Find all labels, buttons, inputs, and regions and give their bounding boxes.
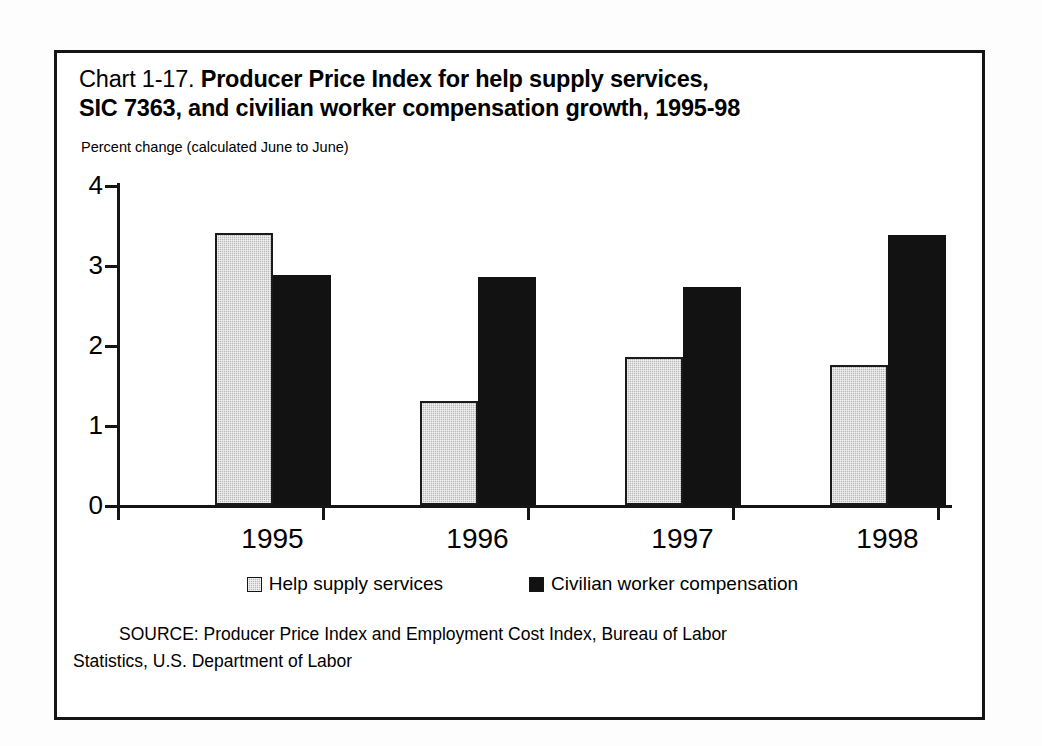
x-axis-label-1995: 1995 (170, 523, 375, 555)
chart-legend: Help supply services Civilian worker com… (57, 573, 988, 595)
legend-label-civilian-worker-compensation: Civilian worker compensation (551, 573, 798, 595)
chart-subtitle: Percent change (calculated June to June) (81, 139, 349, 155)
source-note-line-2: Statistics, U.S. Department of Labor (73, 648, 953, 675)
x-tick-mark-4 (937, 505, 940, 520)
y-tick-label-4: 4 (67, 172, 103, 198)
y-tick-mark-1 (105, 425, 119, 428)
y-axis-tick-labels: 4 3 2 1 0 (55, 185, 103, 505)
chart-title-line-2: SIC 7363, and civilian worker compensati… (79, 94, 968, 123)
x-tick-mark-1 (322, 505, 325, 520)
bar-1996-help-supply-services (420, 401, 478, 505)
source-note: SOURCE: Producer Price Index and Employm… (73, 621, 953, 675)
bar-1997-civilian-worker-compensation (683, 287, 741, 505)
y-tick-label-1: 1 (67, 412, 103, 438)
x-tick-mark-2 (527, 505, 530, 520)
chart-title: Chart 1-17. Producer Price Index for hel… (79, 65, 968, 123)
x-axis-label-1998: 1998 (785, 523, 990, 555)
bar-1998-civilian-worker-compensation (888, 235, 946, 505)
legend-item-civilian-worker-compensation: Civilian worker compensation (529, 573, 798, 595)
bar-1995-civilian-worker-compensation (273, 275, 331, 505)
x-axis-label-1997: 1997 (580, 523, 785, 555)
scanned-page: Chart 1-17. Producer Price Index for hel… (0, 0, 1042, 746)
source-note-line-1: SOURCE: Producer Price Index and Employm… (73, 621, 953, 648)
legend-label-help-supply-services: Help supply services (269, 573, 443, 595)
gray-dither-swatch-icon (247, 577, 262, 592)
y-tick-label-2: 2 (67, 332, 103, 358)
chart-title-number: Chart 1-17. (79, 66, 194, 92)
bar-1995-help-supply-services (215, 233, 273, 505)
y-tick-label-0: 0 (67, 492, 103, 518)
chart-title-main-line-1: Producer Price Index for help supply ser… (201, 66, 709, 92)
chart-title-line-1: Chart 1-17. Producer Price Index for hel… (79, 65, 968, 94)
plot-area: 4 3 2 1 0 1995 (117, 185, 952, 505)
y-tick-mark-4 (105, 185, 119, 188)
bar-1998-help-supply-services (830, 365, 888, 505)
y-tick-label-3: 3 (67, 252, 103, 278)
chart-frame: Chart 1-17. Producer Price Index for hel… (54, 50, 985, 720)
black-solid-swatch-icon (529, 577, 544, 592)
y-tick-mark-2 (105, 345, 119, 348)
bar-1996-civilian-worker-compensation (478, 277, 536, 505)
x-tick-mark-0 (117, 505, 120, 520)
y-tick-mark-3 (105, 265, 119, 268)
legend-item-help-supply-services: Help supply services (247, 573, 443, 595)
x-axis-line (117, 505, 952, 508)
bar-1997-help-supply-services (625, 357, 683, 505)
x-tick-mark-3 (732, 505, 735, 520)
x-axis-label-1996: 1996 (375, 523, 580, 555)
